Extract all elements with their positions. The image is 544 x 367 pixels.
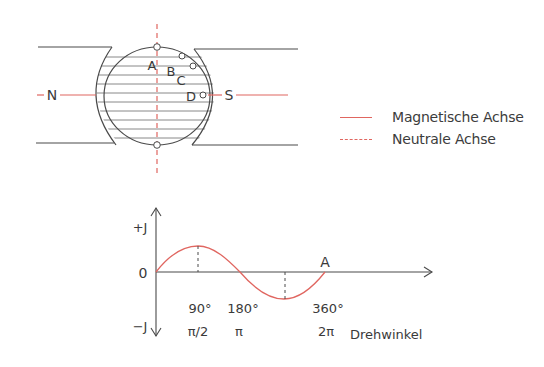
tick-90-rad: π/2	[188, 324, 208, 339]
point-d-label: D	[186, 89, 196, 104]
north-pole-shoe	[96, 47, 116, 145]
machine-schematic: N S A B C D	[36, 24, 298, 176]
legend: Magnetische Achse Neutrale Achse	[340, 106, 524, 150]
point-d-marker	[200, 92, 206, 98]
x-axis-title: Drehwinkel	[350, 327, 422, 342]
point-c-label: C	[176, 73, 185, 88]
dashed-line-swatch-icon	[340, 139, 372, 140]
legend-label: Neutrale Achse	[392, 131, 496, 147]
current-chart: +J 0 −J A 90° π/2 180° π 360° 2π Drehwin…	[133, 208, 432, 342]
legend-label: Magnetische Achse	[392, 109, 524, 125]
y-bottom-label: −J	[133, 319, 148, 334]
tick-360-deg: 360°	[312, 301, 343, 316]
point-a-chart-label: A	[320, 254, 330, 270]
point-b-marker	[179, 53, 185, 59]
point-c-marker	[190, 63, 196, 69]
point-a-label: A	[148, 58, 157, 73]
tick-180-rad: π	[235, 324, 243, 339]
tick-360-rad: 2π	[318, 324, 334, 339]
y-top-label: +J	[133, 220, 148, 235]
legend-item-neutral-axis: Neutrale Achse	[340, 128, 524, 150]
pole-south-label: S	[225, 87, 234, 103]
generator-diagram: N S A B C D +J 0 −J A 90° π/2 180°	[0, 0, 544, 367]
tick-180-deg: 180°	[227, 301, 258, 316]
tick-90-deg: 90°	[188, 301, 211, 316]
solid-line-swatch-icon	[340, 117, 372, 118]
point-a-top-marker	[154, 44, 161, 51]
origin-label: 0	[139, 265, 148, 281]
legend-item-magnetic-axis: Magnetische Achse	[340, 106, 524, 128]
point-b-label: B	[167, 64, 176, 79]
point-a-bottom-marker	[154, 142, 161, 149]
pole-north-label: N	[47, 87, 57, 103]
